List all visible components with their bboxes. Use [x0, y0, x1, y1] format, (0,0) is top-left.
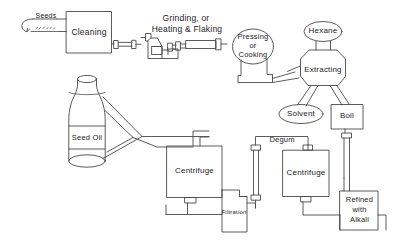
label-extracting: Extracting	[300, 66, 346, 74]
label-boil: Boil	[331, 112, 363, 120]
label-seed-oil: Seed Oil	[69, 134, 105, 142]
collection-funnel	[103, 97, 209, 159]
label-grinding-line1: Grinding, or	[150, 14, 222, 23]
label-centrifuge-left: Centrifuge	[167, 167, 222, 175]
label-pressing-line1: Pressing	[234, 33, 272, 41]
seed-grains-icon	[31, 27, 60, 31]
label-refined-line1: Refined	[341, 196, 378, 204]
label-hexane: Hexane	[303, 27, 343, 35]
diagram-line-art	[0, 0, 398, 243]
centrifuge-right-box	[283, 145, 340, 215]
label-grinding-line2: Heating & Flaking	[146, 25, 228, 34]
label-refined-line2: with	[341, 206, 378, 214]
label-degum: Degum	[262, 136, 302, 144]
seed-oil-process-diagram: Seeds Cleaning Grinding, or Heating & Fl…	[0, 0, 398, 243]
label-pressing-line2: or	[234, 42, 272, 50]
label-cleaning: Cleaning	[66, 28, 112, 37]
seeds-arrow-icon	[22, 19, 57, 31]
label-refined-line3: Alkali	[341, 216, 378, 224]
label-solvent: Solvent	[281, 110, 321, 118]
label-filtration: Filtration	[214, 209, 254, 215]
seed-oil-bottle	[69, 75, 105, 167]
label-pressing-line3: Cooking	[234, 51, 272, 59]
grinding-machinery	[112, 34, 228, 59]
label-centrifuge-right: Centrifuge	[283, 169, 329, 177]
label-seeds: Seeds	[33, 12, 59, 19]
